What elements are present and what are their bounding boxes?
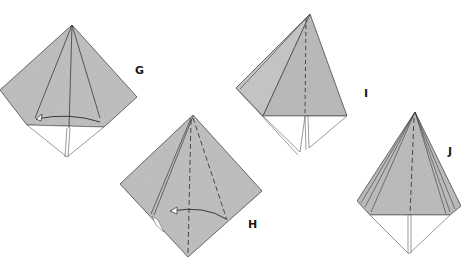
step-j-figure <box>357 112 461 254</box>
origami-diagram <box>0 0 475 266</box>
step-label-h: H <box>248 219 257 230</box>
step-label-g: G <box>135 65 144 76</box>
step-j-lower-flap <box>370 215 450 254</box>
step-i-figure <box>236 14 347 155</box>
step-label-i: I <box>364 88 368 99</box>
step-g-figure <box>0 25 137 157</box>
step-g-paper <box>0 25 137 127</box>
step-h-figure <box>120 115 262 257</box>
step-label-j: J <box>448 146 452 157</box>
step-i-lower-flap <box>263 116 305 152</box>
